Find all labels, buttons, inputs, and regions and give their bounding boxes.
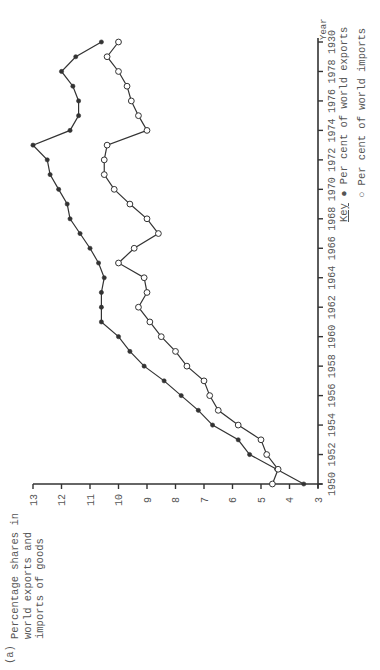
imports-point (275, 466, 281, 472)
imports-point (116, 39, 122, 45)
exports-point (142, 364, 146, 368)
y-tick-label: 13 (29, 494, 40, 506)
imports-point (101, 157, 107, 163)
legend-imports-label: Per cent of world imports (356, 28, 368, 186)
x-tick-label: 1978 (327, 59, 338, 83)
imports-point (141, 275, 147, 281)
imports-point (136, 113, 142, 119)
imports-point (184, 363, 190, 369)
exports-point (210, 423, 214, 427)
rotated-figure: (a) Percentage shares in world exports a… (0, 0, 380, 670)
exports-point (102, 276, 106, 280)
x-tick-label: 1960 (327, 325, 338, 349)
imports-point (144, 290, 150, 296)
imports-point (201, 378, 207, 384)
x-tick-label: 1974 (327, 118, 338, 142)
exports-point (68, 217, 72, 221)
exports-point (77, 114, 81, 118)
legend-exports-label: Per cent of world exports (338, 27, 350, 185)
x-tick-label: 1976 (327, 89, 338, 113)
exports-point (99, 320, 103, 324)
imports-line (104, 42, 278, 484)
y-tick-label: 8 (171, 497, 182, 503)
exports-point (48, 173, 52, 177)
y-tick-label: 6 (228, 497, 239, 503)
exports-point (99, 290, 103, 294)
exports-point (128, 349, 132, 353)
x-tick-label: 1970 (327, 177, 338, 201)
data-series (31, 39, 306, 487)
exports-point (99, 305, 103, 309)
exports-point (59, 69, 63, 73)
exports-point (302, 482, 306, 486)
legend-imports: ○ Per cent of world imports (356, 28, 368, 198)
y-tick-label: 10 (114, 494, 125, 506)
imports-point (131, 245, 137, 251)
exports-point (196, 408, 200, 412)
imports-point (144, 128, 150, 134)
y-tick-label: 5 (257, 497, 268, 503)
y-tick-label: 9 (143, 497, 154, 503)
exports-point (65, 202, 69, 206)
imports-point (235, 422, 241, 428)
imports-point (215, 407, 221, 413)
x-tick-label: 1966 (327, 236, 338, 260)
imports-point (111, 186, 117, 192)
exports-point (179, 394, 183, 398)
x-tick-label: 1972 (327, 148, 338, 172)
exports-line (33, 42, 304, 484)
exports-point (162, 379, 166, 383)
imports-point (136, 304, 142, 310)
exports-point (78, 231, 82, 235)
imports-point (147, 319, 153, 325)
imports-point (124, 83, 130, 89)
exports-point (45, 158, 49, 162)
y-tick-label: 4 (285, 497, 296, 503)
imports-point (116, 260, 122, 266)
exports-point (248, 452, 252, 456)
exports-point (68, 128, 72, 132)
y-tick-label: 12 (57, 494, 68, 506)
x-tick-label: 1952 (327, 443, 338, 467)
imports-point (101, 172, 107, 178)
filled-circle-icon: ● (338, 190, 350, 196)
x-tick-label: 1954 (327, 413, 338, 437)
imports-point (270, 481, 276, 487)
imports-point (258, 437, 264, 443)
x-tick-label: 1958 (327, 354, 338, 378)
open-circle-icon: ○ (356, 192, 368, 198)
imports-point (116, 69, 122, 75)
imports-point (128, 98, 134, 104)
exports-point (77, 99, 81, 103)
exports-point (88, 246, 92, 250)
exports-point (116, 335, 120, 339)
x-tick-label: 1956 (327, 384, 338, 408)
y-tick-label: 11 (86, 494, 97, 506)
exports-point (74, 55, 78, 59)
imports-point (173, 349, 179, 355)
x-tick-label: 1964 (327, 266, 338, 290)
line-chart: 3456789101112131950195219541956195819601… (0, 0, 380, 670)
imports-point (207, 393, 213, 399)
x-tick-label: 1950 (327, 472, 338, 496)
imports-point (264, 452, 270, 458)
exports-point (96, 261, 100, 265)
x-tick-label: 1968 (327, 207, 338, 231)
legend-exports: Key ● Per cent of world exports (338, 27, 350, 222)
y-tick-label: 7 (200, 497, 211, 503)
y-tick-label: 3 (314, 497, 325, 503)
exports-point (57, 187, 61, 191)
exports-point (31, 143, 35, 147)
imports-point (156, 231, 162, 237)
legend-key-word: Key (338, 203, 350, 222)
imports-point (158, 334, 164, 340)
imports-point (104, 54, 110, 60)
imports-point (104, 142, 110, 148)
exports-point (71, 84, 75, 88)
exports-point (236, 438, 240, 442)
imports-point (127, 201, 133, 207)
imports-point (144, 216, 150, 222)
x-axis-title: Year (319, 18, 329, 40)
exports-point (99, 40, 103, 44)
x-tick-label: 1962 (327, 295, 338, 319)
